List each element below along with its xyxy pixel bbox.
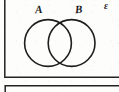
venn-diagram-figure: A B ε xyxy=(0,0,119,92)
universal-set-label: ε xyxy=(104,1,108,11)
set-a-label: A xyxy=(35,4,43,15)
venn-diagram-canvas xyxy=(0,0,119,92)
universal-set-rectangle xyxy=(5,0,119,77)
set-b-label: B xyxy=(75,4,83,15)
secondary-figure-box xyxy=(5,86,119,92)
